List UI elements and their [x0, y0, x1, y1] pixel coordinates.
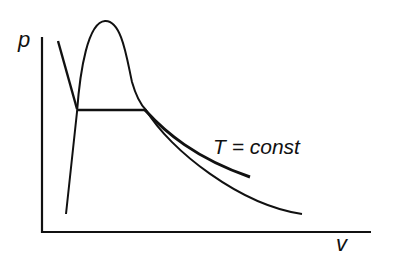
saturation-dome	[66, 21, 302, 214]
pv-diagram: p v T = const	[0, 0, 394, 257]
x-axis-label: v	[336, 231, 349, 256]
isotherm-label: T = const	[213, 135, 301, 158]
y-axis-label: p	[17, 27, 30, 52]
liquid-branch-isotherm	[58, 41, 77, 109]
